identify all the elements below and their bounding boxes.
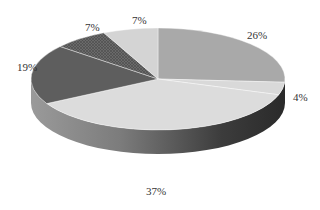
slice-label-26: 26% <box>247 29 267 41</box>
slice-label-7a: 7% <box>85 21 100 33</box>
pie-top-face <box>31 28 285 130</box>
slice-label-7b: 7% <box>132 14 147 26</box>
slice-label-37: 37% <box>146 185 166 197</box>
slice-label-4: 4% <box>293 91 308 103</box>
slice-label-19: 19% <box>17 61 37 73</box>
pie-chart <box>0 0 320 210</box>
